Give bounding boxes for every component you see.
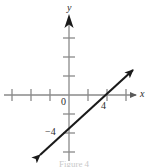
figure-caption: Figure 4: [0, 160, 148, 167]
figure-container: y x 0 4 −4 Figure 4: [0, 0, 148, 167]
plotted-line: [40, 70, 133, 155]
y-axis: [63, 14, 75, 161]
x-tick-label-4: 4: [101, 101, 106, 111]
coordinate-plane-graph: [0, 0, 148, 167]
origin-tick-label: 0: [61, 97, 66, 107]
x-axis-label: x: [140, 89, 144, 99]
y-axis-label: y: [67, 3, 71, 13]
y-tick-label-negative-4: −4: [45, 127, 56, 137]
x-axis: [4, 89, 136, 101]
